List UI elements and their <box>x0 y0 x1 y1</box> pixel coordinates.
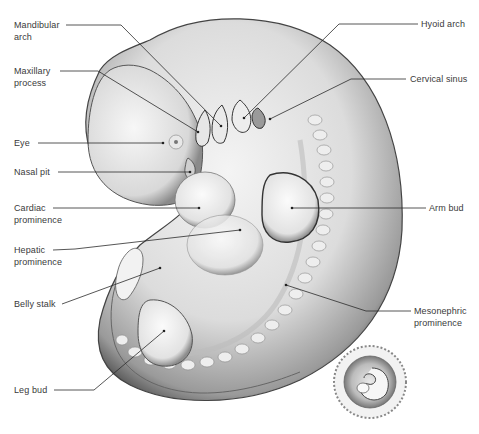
hepatic-bulge <box>187 215 263 275</box>
leader-dot-mesonephric-prominence <box>285 284 288 287</box>
label-arm-bud: Arm bud <box>429 202 464 214</box>
inset-chorion <box>334 346 406 418</box>
label-hepatic-prominence: Hepatic prominence <box>14 244 62 268</box>
label-hyoid-arch: Hyoid arch <box>421 18 465 30</box>
leader-dot-nasal-pit <box>189 171 192 174</box>
label-nasal-pit: Nasal pit <box>14 166 50 178</box>
embryo-diagram: Mandibular arch Maxillary process Eye Na… <box>0 0 479 434</box>
label-eye: Eye <box>14 137 30 149</box>
leader-dot-mandibular-arch <box>220 125 223 128</box>
leader-dot-hyoid-arch <box>243 117 246 120</box>
embryo-illustration <box>0 0 479 434</box>
label-belly-stalk: Belly stalk <box>14 298 56 310</box>
leader-dot-belly-stalk <box>159 267 162 270</box>
label-mandibular-arch: Mandibular arch <box>14 19 60 43</box>
label-cervical-sinus: Cervical sinus <box>410 73 467 85</box>
label-cardiac-prominence: Cardiac prominence <box>14 202 62 226</box>
leader-dot-cardiac-prominence <box>198 207 201 210</box>
leader-dot-leg-bud <box>163 330 166 333</box>
label-mesonephric-prominence: Mesonephric prominence <box>414 305 467 329</box>
leader-dot-eye <box>162 142 165 145</box>
leader-dot-maxillary-process <box>197 131 200 134</box>
leader-dot-arm-bud <box>291 207 294 210</box>
leader-dot-cervical-sinus <box>269 118 272 121</box>
label-maxillary-process: Maxillary process <box>14 65 50 89</box>
leader-dot-hepatic-prominence <box>239 229 242 232</box>
label-leg-bud: Leg bud <box>14 384 47 396</box>
